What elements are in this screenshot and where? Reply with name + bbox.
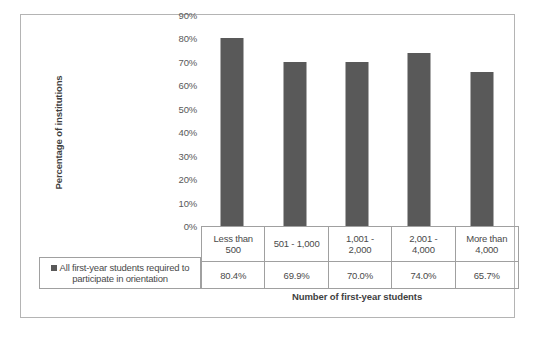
plot-area: 90%80%70%60%50%40%30%20%10%0% — [201, 15, 513, 226]
category-cell: More than4,000 — [455, 227, 518, 262]
category-label-line: More than — [456, 233, 518, 245]
y-axis-tick-10pct: 10% — [161, 197, 197, 208]
y-axis-tick-50pct: 50% — [161, 103, 197, 114]
category-cell: Less than500 — [202, 227, 265, 262]
category-label-line: 1,001 - — [329, 233, 391, 245]
category-cell: 501 - 1,000 — [265, 227, 328, 262]
category-cell: 1,001 -2,000 — [328, 227, 391, 262]
legend-swatch-icon — [51, 265, 57, 271]
bar-slot — [451, 15, 513, 226]
bar[interactable] — [408, 53, 431, 226]
x-axis-title: Number of first-year students — [201, 291, 513, 302]
value-cell: 65.7% — [455, 262, 518, 289]
bar-slot — [326, 15, 388, 226]
value-cell: 70.0% — [328, 262, 391, 289]
y-axis-title: Percentage of institutions — [53, 53, 64, 213]
bar-slot — [263, 15, 325, 226]
y-axis-tick-70pct: 70% — [161, 56, 197, 67]
y-axis-tick-labels: 90%80%70%60%50%40%30%20%10%0% — [161, 15, 197, 226]
bar[interactable] — [345, 62, 368, 226]
category-cell: 2,001 -4,000 — [392, 227, 455, 262]
category-label-line: 500 — [202, 244, 264, 256]
category-label-line: 2,001 - — [392, 233, 454, 245]
category-label-line: 4,000 — [456, 244, 518, 256]
legend-label-line1: All first-year students required to — [60, 262, 190, 273]
legend: All first-year students required toparti… — [39, 257, 201, 289]
value-cell: 69.9% — [265, 262, 328, 289]
category-label-line: 4,000 — [392, 244, 454, 256]
value-cell: 74.0% — [392, 262, 455, 289]
legend-item: All first-year students required toparti… — [51, 262, 190, 285]
bar[interactable] — [283, 62, 306, 226]
y-axis-tick-80pct: 80% — [161, 33, 197, 44]
category-label-line: Less than — [202, 233, 264, 245]
y-axis-tick-30pct: 30% — [161, 150, 197, 161]
category-label-line: 2,000 — [329, 244, 391, 256]
data-table: Less than500501 - 1,0001,001 -2,0002,001… — [201, 226, 519, 289]
y-axis-tick-60pct: 60% — [161, 80, 197, 91]
y-axis-tick-0pct: 0% — [161, 221, 197, 232]
bar-slot — [388, 15, 450, 226]
table-row-values: 80.4%69.9%70.0%74.0%65.7% — [202, 262, 519, 289]
bar[interactable] — [221, 38, 244, 226]
chart-frame: Percentage of institutions 90%80%70%60%5… — [20, 14, 515, 318]
legend-label-line2: participate in orientation — [72, 273, 168, 284]
y-axis-tick-40pct: 40% — [161, 127, 197, 138]
bar[interactable] — [470, 72, 493, 226]
bar-series — [201, 15, 513, 226]
y-axis-tick-90pct: 90% — [161, 10, 197, 21]
category-label-line: 501 - 1,000 — [265, 238, 327, 250]
bar-slot — [201, 15, 263, 226]
table-row-categories: Less than500501 - 1,0001,001 -2,0002,001… — [202, 227, 519, 262]
y-axis-tick-20pct: 20% — [161, 174, 197, 185]
value-cell: 80.4% — [202, 262, 265, 289]
